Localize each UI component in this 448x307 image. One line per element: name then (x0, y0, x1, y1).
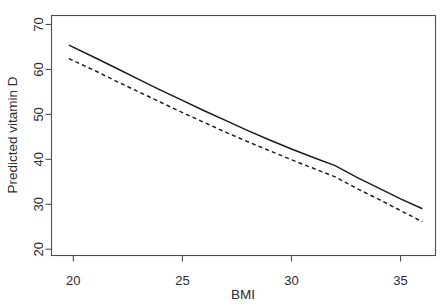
plot-frame (52, 16, 436, 256)
x-tick-label: 30 (284, 273, 298, 288)
series-solid-curve (69, 45, 422, 209)
y-tick-label: 50 (32, 107, 47, 121)
series-group (69, 45, 422, 222)
x-tick-label: 25 (175, 273, 189, 288)
y-axis-ticks (46, 24, 52, 249)
y-axis-title: Predicted vitamin D (5, 76, 20, 193)
y-tick-label: 30 (32, 197, 47, 211)
x-axis-title: BMI (231, 287, 255, 302)
chart-svg: 203040506070 20253035 BMI Predicted vita… (0, 0, 448, 307)
y-tick-label: 60 (32, 62, 47, 76)
x-axis-tick-labels: 20253035 (66, 273, 408, 288)
y-axis-tick-labels: 203040506070 (32, 17, 47, 256)
y-tick-label: 20 (32, 242, 47, 256)
x-tick-label: 20 (66, 273, 80, 288)
chart-figure: 203040506070 20253035 BMI Predicted vita… (0, 0, 448, 307)
y-tick-label: 70 (32, 17, 47, 31)
y-tick-label: 40 (32, 152, 47, 166)
x-tick-label: 35 (393, 273, 407, 288)
x-axis-ticks (73, 256, 400, 262)
series-dashed-curve (69, 59, 422, 222)
